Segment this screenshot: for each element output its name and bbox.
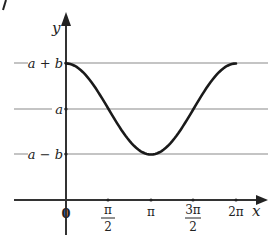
tick-two-pi [234, 198, 237, 201]
tick-three-pi-half [191, 198, 194, 201]
tick-pi-half [106, 198, 109, 201]
tick-label-three-pi-half-den: 2 [189, 220, 197, 234]
y-axis-arrow-icon [61, 12, 71, 26]
origin-label: 0 [61, 206, 70, 221]
tick-label-three-pi-half-num: 3π [185, 203, 201, 217]
tick-label-pi: π [147, 205, 155, 219]
level-label-mid: a [55, 102, 63, 117]
level-dot-min [64, 152, 67, 155]
tick-label-two-pi: 2π [228, 205, 244, 219]
tick-label-pi-half-den: 2 [104, 220, 112, 234]
x-axis-label: x [252, 202, 261, 220]
level-dot-mid [64, 107, 67, 110]
tick-label-pi-half-num: π [104, 203, 112, 217]
y-axis-label: y [51, 19, 61, 37]
tick-pi [149, 198, 152, 201]
chart-canvas: y x a + b a a − b 0 π 2 π 3π 2 2π [0, 0, 268, 235]
level-label-max: a + b [28, 56, 63, 71]
level-label-min: a − b [28, 147, 63, 162]
cropped-glyph [3, 0, 6, 10]
